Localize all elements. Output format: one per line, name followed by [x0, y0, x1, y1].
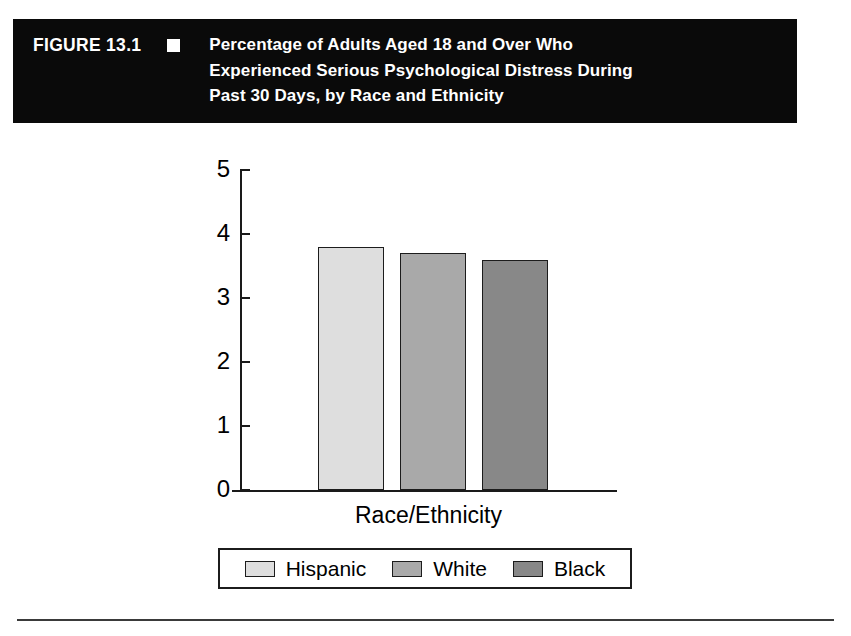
legend-swatch-icon [245, 561, 275, 577]
figure-title-line-1: Percentage of Adults Aged 18 and Over Wh… [209, 32, 783, 58]
bar-chart: 012345 Race/Ethnicity HispanicWhiteBlack [0, 123, 851, 593]
y-axis-tick-label: 2 [217, 347, 230, 375]
bar-group [242, 170, 617, 490]
y-axis-tick-label: 3 [217, 283, 230, 311]
legend-swatch-icon [392, 561, 422, 577]
bar-black [482, 260, 548, 490]
figure-title: Percentage of Adults Aged 18 and Over Wh… [180, 32, 797, 109]
chart-legend: HispanicWhiteBlack [218, 548, 632, 589]
x-axis-line [232, 490, 617, 492]
legend-item-white: White [392, 557, 487, 581]
y-axis-tick-label: 4 [217, 219, 230, 247]
square-bullet-icon [167, 39, 180, 52]
bottom-divider [17, 619, 834, 621]
y-axis-tick-label: 5 [217, 155, 230, 183]
figure-header-banner: FIGURE 13.1 Percentage of Adults Aged 18… [13, 19, 797, 123]
figure-header-inner: FIGURE 13.1 Percentage of Adults Aged 18… [13, 32, 797, 109]
x-axis-label: Race/Ethnicity [240, 501, 617, 529]
legend-label: White [433, 557, 487, 581]
legend-label: Black [554, 557, 605, 581]
legend-item-hispanic: Hispanic [245, 557, 367, 581]
plot-area: 012345 [240, 170, 617, 490]
bar-white [400, 253, 466, 490]
legend-swatch-icon [513, 561, 543, 577]
figure-title-line-2: Experienced Serious Psychological Distre… [209, 58, 783, 84]
y-axis-tick-label: 0 [217, 475, 230, 503]
figure-title-line-3: Past 30 Days, by Race and Ethnicity [209, 83, 783, 109]
bar-hispanic [318, 247, 384, 490]
y-axis-tick-label: 1 [217, 411, 230, 439]
legend-item-black: Black [513, 557, 605, 581]
figure-number-label: FIGURE 13.1 [13, 32, 141, 58]
legend-label: Hispanic [286, 557, 367, 581]
